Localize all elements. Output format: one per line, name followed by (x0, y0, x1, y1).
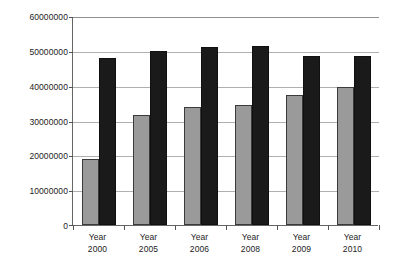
x-category-year-2010: Year 2010 (327, 232, 378, 272)
bar-group-year-2008 (226, 16, 277, 225)
bar-series-1-year-2008[interactable] (235, 105, 252, 225)
bar-group-year-2009 (277, 16, 328, 225)
bar-series-2-year-2009[interactable] (303, 56, 320, 225)
x-category-year-2005-line-2: 2005 (123, 244, 174, 256)
x-axis-category-labels: Year 2000 Year 2005 Year 2006 Year 2008 … (72, 232, 378, 272)
x-category-year-2006: Year 2006 (174, 232, 225, 272)
bar-series-2-year-2008[interactable] (252, 46, 269, 225)
x-tick-mark-6 (379, 225, 380, 230)
bar-series-2-year-2000[interactable] (99, 58, 116, 225)
y-axis-tick-labels: 60000000 50000000 40000000 30000000 2000… (0, 0, 68, 275)
x-category-year-2000-line-2: 2000 (72, 244, 123, 256)
y-tick-label-20000000: 20000000 (0, 152, 68, 161)
bar-group-year-2006 (175, 16, 226, 225)
bar-groups (73, 16, 379, 225)
x-category-year-2006-line-1: Year (174, 232, 225, 244)
bar-series-1-year-2009[interactable] (286, 95, 303, 225)
bar-series-2-year-2010[interactable] (354, 56, 371, 225)
x-category-year-2010-line-2: 2010 (327, 244, 378, 256)
bar-group-year-2000 (73, 16, 124, 225)
y-tick-label-40000000: 40000000 (0, 82, 68, 91)
bar-series-1-year-2010[interactable] (337, 87, 354, 225)
x-category-year-2010-line-1: Year (327, 232, 378, 244)
bar-group-year-2010 (328, 16, 379, 225)
y-tick-label-0: 0 (0, 222, 68, 231)
x-category-year-2008-line-2: 2008 (225, 244, 276, 256)
x-category-year-2005: Year 2005 (123, 232, 174, 272)
x-tick-mark-4 (277, 225, 278, 230)
x-category-year-2000-line-1: Year (72, 232, 123, 244)
x-category-year-2009: Year 2009 (276, 232, 327, 272)
x-tick-mark-3 (226, 225, 227, 230)
bar-series-1-year-2005[interactable] (133, 115, 150, 225)
x-tick-mark-5 (328, 225, 329, 230)
y-tick-label-30000000: 30000000 (0, 117, 68, 126)
x-tick-mark-2 (175, 225, 176, 230)
y-tick-label-50000000: 50000000 (0, 47, 68, 56)
x-category-year-2009-line-2: 2009 (276, 244, 327, 256)
x-category-year-2009-line-1: Year (276, 232, 327, 244)
x-tick-mark-1 (124, 225, 125, 230)
x-category-year-2000: Year 2000 (72, 232, 123, 272)
y-tick-label-10000000: 10000000 (0, 187, 68, 196)
bar-group-year-2005 (124, 16, 175, 225)
bar-series-2-year-2006[interactable] (201, 47, 218, 225)
plot-area (72, 17, 378, 226)
x-tick-mark-0 (73, 225, 74, 230)
bar-series-1-year-2000[interactable] (82, 159, 99, 225)
bar-chart: 60000000 50000000 40000000 30000000 2000… (0, 0, 397, 275)
bar-series-1-year-2006[interactable] (184, 107, 201, 225)
x-category-year-2008-line-1: Year (225, 232, 276, 244)
x-category-year-2008: Year 2008 (225, 232, 276, 272)
x-category-year-2006-line-2: 2006 (174, 244, 225, 256)
y-tick-label-60000000: 60000000 (0, 13, 68, 22)
bar-series-2-year-2005[interactable] (150, 51, 167, 225)
x-category-year-2005-line-1: Year (123, 232, 174, 244)
